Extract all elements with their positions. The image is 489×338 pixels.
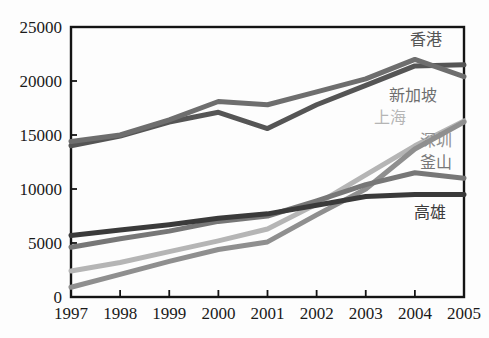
series-label: 深圳 — [420, 133, 452, 149]
x-tick-label: 2004 — [398, 304, 433, 323]
series-label: 上海 — [374, 110, 406, 126]
y-tick-label: 5000 — [28, 234, 62, 253]
chart-canvas: 0500010000150002000025000 19971998199920… — [0, 0, 489, 338]
y-tick-label: 10000 — [20, 180, 63, 199]
x-tick-label: 2000 — [201, 304, 235, 323]
y-axis-tick-labels: 0500010000150002000025000 — [20, 18, 63, 307]
series-label: 釜山 — [420, 155, 452, 171]
x-tick-label: 1998 — [103, 304, 137, 323]
series-label: 高雄 — [414, 205, 446, 221]
x-axis-tick-labels: 199719981999200020012002200320042005 — [54, 304, 481, 323]
y-tick-label: 25000 — [20, 18, 63, 37]
series-label: 新加坡 — [389, 88, 437, 104]
x-tick-label: 2005 — [447, 304, 481, 323]
line-chart: 0500010000150002000025000 19971998199920… — [0, 0, 489, 338]
x-tick-label: 1999 — [152, 304, 186, 323]
y-tick-label: 20000 — [20, 72, 63, 91]
x-tick-label: 1997 — [54, 304, 89, 323]
x-tick-label: 2003 — [349, 304, 383, 323]
y-tick-label: 15000 — [20, 126, 63, 145]
x-tick-label: 2002 — [300, 304, 334, 323]
series-label: 香港 — [410, 32, 442, 48]
series-line — [71, 173, 464, 248]
x-tick-label: 2001 — [251, 304, 285, 323]
